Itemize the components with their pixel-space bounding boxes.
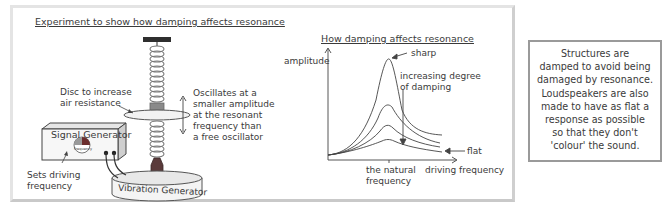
x-axis-label: driving frequency: [425, 165, 504, 176]
upper-spring-icon: [150, 46, 164, 102]
natural-frequency-line: frequency: [366, 176, 411, 186]
oscillates-label: Oscillates at a smaller amplitude at the…: [193, 88, 275, 143]
clamp-bar-icon: [143, 37, 171, 42]
increasing-line: increasing degree: [400, 71, 481, 81]
lower-spring-icon: [150, 121, 164, 157]
note-box: Structures are damped to avoid being dam…: [528, 40, 662, 162]
signal-generator-label: Signal Generator: [51, 129, 131, 140]
experiment-title: Experiment to show how damping affects r…: [35, 16, 285, 27]
oscillates-line: smaller amplitude: [193, 99, 275, 109]
note-line: 'colour' the sound.: [530, 139, 660, 152]
increasing-damping-label: increasing degree of damping: [400, 71, 481, 93]
sets-driving-line: frequency: [27, 181, 72, 191]
oscillates-line: at the resonant: [193, 110, 262, 120]
note-line: Structures are: [530, 47, 660, 60]
note-line: so that they don't: [530, 126, 660, 139]
flat-label: flat: [467, 146, 482, 157]
note-line: made to have as flat a: [530, 100, 660, 113]
disc-label-line: Disc to increase: [60, 87, 132, 97]
note-line: Loudspeakers are also: [530, 87, 660, 100]
curve-flat: [328, 140, 442, 156]
natural-frequency-line: the natural: [366, 165, 416, 175]
note-line: damped to avoid being: [530, 60, 660, 73]
sets-driving-label: Sets driving frequency: [27, 170, 81, 192]
graph-title: How damping affects resonance: [321, 33, 474, 44]
resonance-graph: [325, 48, 465, 163]
sharp-label: sharp: [411, 48, 436, 59]
y-axis-label: amplitude: [284, 56, 329, 67]
oscillates-line: Oscillates at a: [193, 88, 257, 98]
natural-frequency-label: the natural frequency: [366, 165, 416, 187]
increasing-line: of damping: [400, 82, 451, 92]
disc-label: Disc to increase air resistance: [60, 87, 132, 109]
disc-label-line: air resistance: [60, 98, 121, 108]
frequency-dial-label: Frequency: [74, 147, 92, 151]
note-line: response as possible: [530, 113, 660, 126]
curve-light: [328, 105, 440, 155]
sets-driving-line: Sets driving: [27, 170, 81, 180]
oscillates-line: a free oscillator: [193, 132, 263, 142]
oscillates-line: frequency than: [193, 121, 261, 131]
disc-icon: [124, 110, 190, 120]
note-line: damaged by resonance.: [530, 73, 660, 86]
